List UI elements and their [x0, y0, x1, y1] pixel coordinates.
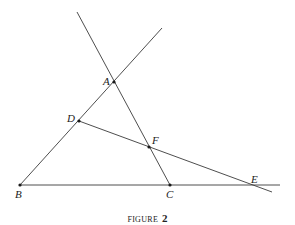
point-a [112, 80, 115, 83]
figure-caption: FIGURE 2 [0, 211, 295, 225]
point-f [147, 145, 150, 148]
point-b [18, 183, 21, 186]
point-d [77, 119, 80, 122]
line-AC-extended [77, 12, 170, 185]
label-b: B [15, 188, 22, 200]
label-a: A [102, 75, 110, 87]
point-c [168, 183, 171, 186]
label-f: F [151, 134, 159, 146]
labels-layer: ABCDEF [15, 75, 258, 200]
label-c: C [166, 188, 174, 200]
line-DE-extended [79, 121, 272, 192]
caption-word: FIGURE [127, 215, 158, 224]
caption-number: 2 [162, 212, 168, 224]
label-e: E [250, 173, 258, 185]
label-d: D [66, 112, 75, 124]
lines-layer [20, 12, 280, 192]
geometry-figure: ABCDEF [0, 0, 295, 225]
line-BA-extended [20, 28, 162, 185]
points-layer [18, 80, 171, 186]
